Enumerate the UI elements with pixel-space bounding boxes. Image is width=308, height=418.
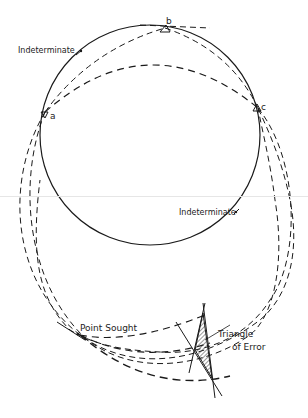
label-point-sought: Point Sought	[80, 324, 137, 333]
indeterminate-dot-top	[80, 50, 82, 52]
label-indeterminate-right: Indeterminate	[179, 209, 236, 217]
label-point-a: a	[50, 112, 56, 121]
label-point-c: c	[261, 103, 266, 112]
label-triangle-of-error-line1: Triangle	[218, 330, 253, 339]
dashed-arc-a-b	[45, 28, 165, 112]
label-triangle-of-error-line2: of Error	[232, 343, 265, 352]
triangle-of-error	[195, 313, 212, 378]
dashed-large-arc-outer	[36, 108, 291, 352]
scan-seam	[0, 196, 308, 197]
dashed-large-arc-left-2	[30, 108, 279, 364]
label-indeterminate-top: Indeterminate	[18, 47, 75, 55]
label-point-b: b	[166, 17, 172, 26]
dashed-arc-a-c	[45, 65, 258, 112]
resection-diagram	[0, 0, 308, 418]
